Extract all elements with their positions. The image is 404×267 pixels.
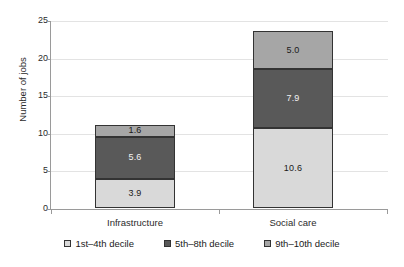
legend-label: 5th–8th decile (175, 239, 234, 249)
legend-label: 1st–4th decile (75, 239, 134, 249)
x-tick-mark (387, 210, 388, 214)
stacked-bar[interactable]: 5.07.910.6 (253, 31, 333, 208)
bar-group: 5.07.910.6 (253, 20, 333, 208)
stacked-bar-chart: Number of jobs 2520151050 1.65.63.95.07.… (0, 0, 404, 267)
bar-segment-label: 7.9 (286, 94, 299, 103)
legend-label: 9th–10th decile (275, 239, 339, 249)
bar-segment[interactable]: 5.6 (95, 137, 175, 179)
legend-swatch-icon (264, 240, 271, 247)
plot-area: 1.65.63.95.07.910.6 InfrastructureSocial… (50, 21, 388, 210)
y-tick-label: 15 (18, 91, 48, 100)
chart-legend: 1st–4th decile5th–8th decile9th–10th dec… (0, 239, 404, 249)
x-tick-mark (219, 210, 220, 214)
stacked-bar[interactable]: 1.65.63.9 (95, 125, 175, 208)
bar-group: 1.65.63.9 (95, 20, 175, 208)
legend-item[interactable]: 5th–8th decile (164, 239, 234, 249)
y-tick-label: 5 (18, 166, 48, 175)
y-tick-label: 0 (18, 204, 48, 213)
legend-item[interactable]: 1st–4th decile (64, 239, 134, 249)
y-axis-title: Number of jobs (17, 20, 28, 160)
y-tick-label: 20 (18, 54, 48, 63)
y-tick-label: 25 (18, 16, 48, 25)
bar-segment[interactable]: 7.9 (253, 69, 333, 128)
bar-segment-label: 10.6 (284, 164, 302, 173)
bar-segment[interactable]: 3.9 (95, 179, 175, 208)
legend-swatch-icon (64, 240, 71, 247)
bar-segment-label: 3.9 (128, 189, 141, 198)
x-category-label: Social care (218, 217, 368, 228)
y-tick-label: 10 (18, 129, 48, 138)
bar-segment-label: 5.6 (128, 153, 141, 162)
x-tick-mark (51, 210, 52, 214)
legend-swatch-icon (164, 240, 171, 247)
bar-segment-label: 1.6 (128, 126, 141, 135)
bar-segment[interactable]: 1.6 (95, 125, 175, 137)
bar-segment-label: 5.0 (286, 46, 299, 55)
legend-item[interactable]: 9th–10th decile (264, 239, 339, 249)
bar-segment[interactable]: 5.0 (253, 31, 333, 69)
bar-segment[interactable]: 10.6 (253, 128, 333, 208)
x-category-label: Infrastructure (60, 217, 210, 228)
